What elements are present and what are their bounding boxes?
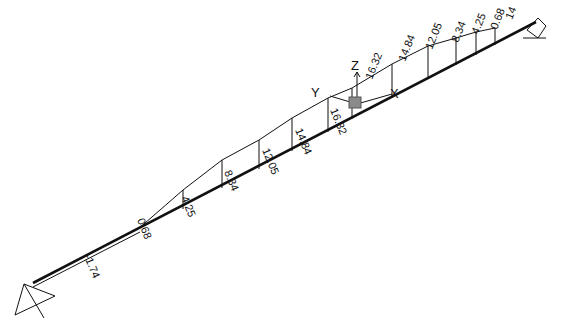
moment-value-label: 14: [503, 5, 519, 21]
moment-value-label: 16.32: [363, 51, 384, 81]
moment-value-label: 12.05: [260, 146, 281, 176]
axis-label-z: Z: [351, 58, 359, 73]
moment-value-label: 12.05: [423, 21, 444, 51]
moment-value-label: 4.25: [469, 11, 488, 35]
moment-value-label: 14.84: [293, 126, 314, 156]
diagram-canvas: Z Y X -1.740.684.258.3412.0514.8416.3216…: [0, 0, 562, 331]
moment-value-label: 0.68: [488, 6, 507, 30]
axis-label-y: Y: [311, 85, 320, 100]
moment-value-label: -1.74: [82, 252, 103, 280]
moment-value-labels: -1.740.684.258.3412.0514.8416.3216.3214.…: [82, 5, 518, 280]
moment-value-label: 14.84: [396, 33, 417, 63]
moment-value-label: 16.32: [328, 106, 349, 136]
moment-value-label: 8.34: [222, 168, 241, 192]
axis-label-x: X: [390, 86, 399, 101]
frame-member[interactable]: [33, 22, 536, 287]
pin-support-icon: [15, 284, 55, 318]
moment-value-label: 8.34: [449, 19, 468, 43]
